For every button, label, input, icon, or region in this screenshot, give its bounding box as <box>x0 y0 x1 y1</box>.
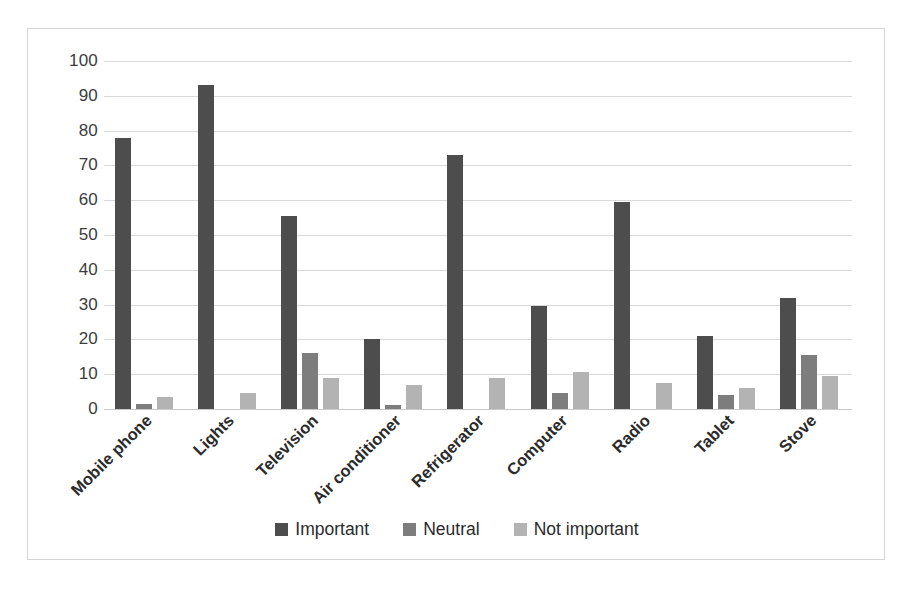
bar-group <box>686 61 769 409</box>
x-label-tablet: Tablet <box>691 411 738 458</box>
bar-important[interactable] <box>614 202 630 409</box>
x-label-lights: Lights <box>190 411 238 459</box>
y-tick-label-70: 70 <box>79 155 98 175</box>
x-axis-labels: Mobile phoneLightsTelevisionAir conditio… <box>104 411 852 531</box>
bar-neutral[interactable] <box>718 395 734 409</box>
bar-important[interactable] <box>281 216 297 409</box>
legend-swatch-icon <box>403 523 416 536</box>
bar-neutral[interactable] <box>385 405 401 409</box>
bar-group <box>270 61 353 409</box>
y-tick-label-100: 100 <box>69 51 98 71</box>
legend-item[interactable]: Neutral <box>403 519 479 540</box>
legend-label: Neutral <box>423 519 479 540</box>
bar-neutral[interactable] <box>302 353 318 409</box>
legend-swatch-icon <box>275 523 288 536</box>
bar-important[interactable] <box>364 339 380 409</box>
legend-label: Important <box>295 519 369 540</box>
bar-important[interactable] <box>780 298 796 409</box>
bar-group <box>353 61 436 409</box>
bars-layer <box>104 61 852 409</box>
y-tick-label-40: 40 <box>79 260 98 280</box>
bar-notimportant[interactable] <box>822 376 838 409</box>
gridline-0 <box>104 409 852 410</box>
x-label-computer: Computer <box>502 411 571 480</box>
x-label-mobile-phone: Mobile phone <box>67 411 156 500</box>
y-tick-label-30: 30 <box>79 295 98 315</box>
bar-notimportant[interactable] <box>240 393 256 409</box>
bar-important[interactable] <box>447 155 463 409</box>
bar-neutral[interactable] <box>552 393 568 409</box>
legend-item[interactable]: Not important <box>514 519 639 540</box>
y-tick-label-90: 90 <box>79 86 98 106</box>
bar-group <box>436 61 519 409</box>
bar-neutral[interactable] <box>136 404 152 409</box>
y-tick-label-0: 0 <box>88 399 98 419</box>
bar-group <box>769 61 852 409</box>
chart-container: 1009080706050403020100 Mobile phoneLight… <box>27 28 885 560</box>
x-label-refrigerator: Refrigerator <box>408 411 488 491</box>
bar-notimportant[interactable] <box>656 383 672 409</box>
x-label-radio: Radio <box>608 411 654 457</box>
bar-notimportant[interactable] <box>489 378 505 409</box>
y-tick-label-60: 60 <box>79 190 98 210</box>
x-label-stove: Stove <box>775 411 820 456</box>
y-axis: 1009080706050403020100 <box>54 61 98 409</box>
bar-important[interactable] <box>198 85 214 409</box>
bar-group <box>603 61 686 409</box>
bar-notimportant[interactable] <box>406 385 422 409</box>
x-label-television: Television <box>252 411 322 481</box>
y-tick-label-50: 50 <box>79 225 98 245</box>
bar-neutral[interactable] <box>801 355 817 409</box>
bar-group <box>520 61 603 409</box>
y-tick-label-20: 20 <box>79 329 98 349</box>
bar-group <box>187 61 270 409</box>
legend-item[interactable]: Important <box>275 519 369 540</box>
bar-notimportant[interactable] <box>739 388 755 409</box>
y-tick-label-80: 80 <box>79 121 98 141</box>
legend-label: Not important <box>534 519 639 540</box>
legend-swatch-icon <box>514 523 527 536</box>
chart-legend: ImportantNeutralNot important <box>28 519 886 540</box>
bar-important[interactable] <box>531 306 547 409</box>
bar-important[interactable] <box>115 138 131 409</box>
y-tick-label-10: 10 <box>79 364 98 384</box>
x-label-air-conditioner: Air conditioner <box>309 411 405 507</box>
bar-group <box>104 61 187 409</box>
bar-notimportant[interactable] <box>323 378 339 409</box>
plot-area <box>104 61 852 409</box>
bar-notimportant[interactable] <box>573 372 589 409</box>
bar-important[interactable] <box>697 336 713 409</box>
bar-notimportant[interactable] <box>157 397 173 409</box>
